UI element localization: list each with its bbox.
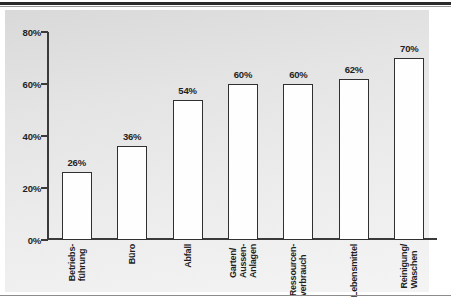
x-axis-category-label: Abfall xyxy=(183,244,193,268)
bottom-rule xyxy=(0,295,451,296)
bar-group: 60% xyxy=(215,32,270,240)
x-axis-category-label: Büro xyxy=(127,244,137,264)
y-axis-tick-label: 60% xyxy=(7,79,41,90)
x-axis-category-label-line: Waschen xyxy=(409,244,419,289)
bar[interactable] xyxy=(339,79,369,240)
x-axis-category-label-line: Lebensmittel xyxy=(349,244,359,297)
y-axis-labels: 0%20%40%60%80% xyxy=(5,10,41,292)
y-axis-tick-label: 0% xyxy=(7,235,41,246)
x-axis-category-label-line: Reinigung/ xyxy=(399,244,409,289)
x-axis-category-label: Betriebs-führung xyxy=(67,244,87,281)
x-axis-category-label-line: Garten/ xyxy=(228,244,238,278)
x-axis-label-slot: Betriebs-führung xyxy=(49,244,104,302)
bar-value-label: 70% xyxy=(400,43,418,54)
x-axis-category-label-line: Anlagen xyxy=(248,244,258,278)
bar-group: 54% xyxy=(160,32,215,240)
bar-value-label: 26% xyxy=(67,157,85,168)
bar-group: 36% xyxy=(104,32,159,240)
bar[interactable] xyxy=(62,172,92,240)
chart-panel: 0%20%40%60%80% 26%36%54%60%60%62%70% Bet… xyxy=(5,10,429,292)
x-axis-label-slot: Lebensmittel xyxy=(326,244,381,302)
x-axis-category-label-line: Betriebs- xyxy=(67,244,77,281)
x-axis-category-label-line: Büro xyxy=(127,244,137,264)
bar-value-label: 62% xyxy=(345,64,363,75)
bar[interactable] xyxy=(394,58,424,240)
x-axis-category-label-line: Ressourcen- xyxy=(288,244,298,296)
bar-group: 26% xyxy=(49,32,104,240)
bar[interactable] xyxy=(173,100,203,240)
x-axis-category-label-line: Aussen- xyxy=(238,244,248,278)
x-axis-category-label-line: verbrauch xyxy=(298,244,308,296)
x-axis-label-slot: Reinigung/Waschen xyxy=(382,244,437,302)
bar[interactable] xyxy=(117,146,147,240)
bar[interactable] xyxy=(283,84,313,240)
y-axis-tick-label: 40% xyxy=(7,131,41,142)
bar-value-label: 60% xyxy=(289,69,307,80)
x-axis-label-slot: Garten/Aussen-Anlagen xyxy=(215,244,270,302)
x-axis-category-label-line: Abfall xyxy=(183,244,193,268)
y-axis-tick-label: 20% xyxy=(7,183,41,194)
x-axis-category-label: Garten/Aussen-Anlagen xyxy=(228,244,258,278)
bar-value-label: 60% xyxy=(234,69,252,80)
x-axis-label-slot: Abfall xyxy=(160,244,215,302)
bar-value-label: 54% xyxy=(178,85,196,96)
bar-chart-figure: 0%20%40%60%80% 26%36%54%60%60%62%70% Bet… xyxy=(0,0,451,305)
top-heading-rule-thin xyxy=(0,6,451,7)
top-heading-rule xyxy=(0,2,451,5)
plot-area: 26%36%54%60%60%62%70% xyxy=(49,32,437,240)
bar[interactable] xyxy=(228,84,258,240)
bar-group: 70% xyxy=(382,32,437,240)
x-axis-label-slot: Büro xyxy=(104,244,159,302)
x-axis-category-label: Reinigung/Waschen xyxy=(399,244,419,289)
x-axis-label-slot: Ressourcen-verbrauch xyxy=(271,244,326,302)
x-axis-category-label: Ressourcen-verbrauch xyxy=(288,244,308,296)
bar-group: 62% xyxy=(326,32,381,240)
bar-group: 60% xyxy=(271,32,326,240)
x-axis-category-label: Lebensmittel xyxy=(349,244,359,297)
x-axis-category-label-line: führung xyxy=(77,244,87,281)
bar-value-label: 36% xyxy=(123,131,141,142)
y-axis-tick-label: 80% xyxy=(7,27,41,38)
x-axis-category-labels: Betriebs-führungBüroAbfallGarten/Aussen-… xyxy=(49,244,437,302)
